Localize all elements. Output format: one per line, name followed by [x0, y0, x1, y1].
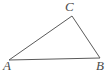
geometry-figure: A B C — [0, 0, 107, 74]
triangle-diagram — [0, 0, 107, 74]
vertex-label-c: C — [65, 0, 74, 13]
triangle-shape — [9, 16, 100, 60]
vertex-label-b: B — [96, 59, 104, 72]
vertex-label-a: A — [3, 59, 11, 72]
